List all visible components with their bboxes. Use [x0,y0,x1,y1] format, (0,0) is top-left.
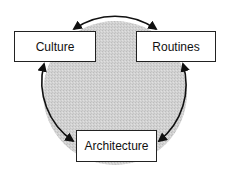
node-label: Architecture [84,139,148,153]
node-culture: Culture [14,31,96,62]
node-routines: Routines [136,31,216,62]
node-architecture: Architecture [76,130,157,162]
node-label: Routines [152,40,199,54]
node-label: Culture [36,40,75,54]
